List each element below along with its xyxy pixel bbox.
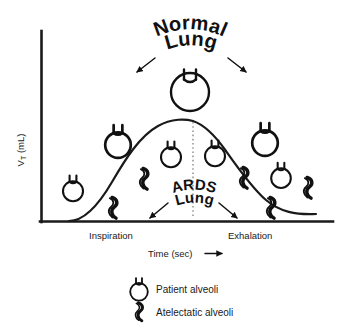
patient-alveolus-icon: [130, 278, 148, 301]
exhalation-label: Exhalation: [228, 230, 272, 241]
patient-alveolus-left-upper: [105, 125, 131, 158]
atelectatic-alveolus-icon: [135, 303, 142, 321]
legend-item-atelectatic-alveoli: Atelectatic alveoli: [135, 303, 233, 321]
normal-lung-arrow-right: [228, 58, 246, 72]
x-axis-label: Time (sec): [148, 248, 193, 259]
patient-alveolus-right-upper: [252, 123, 278, 156]
legend-label-patient-alveoli: Patient alveoli: [156, 284, 218, 295]
y-axis-label-group: VT (mL): [15, 134, 28, 167]
atelectatic-alveolus-left-mid: [140, 168, 148, 189]
diagram-canvas: Normal Lung ARDS Lung VT (mL) Inspiratio…: [0, 0, 350, 331]
inspiration-label: Inspiration: [89, 230, 133, 241]
legend-label-atelectatic-alveoli: Atelectatic alveoli: [156, 307, 233, 318]
normal-lung-alveolus: [171, 70, 209, 112]
legend: Patient alveoli Atelectatic alveoli: [130, 278, 233, 321]
patient-alveolus-mid-left: [161, 142, 181, 168]
patient-alveolus-right-lower: [271, 163, 291, 188]
atelectatic-alveolus-left-low: [109, 197, 117, 218]
y-axis-label-unit: (mL): [15, 134, 26, 156]
legend-item-patient-alveoli: Patient alveoli: [130, 278, 218, 301]
patient-alveolus-far-left: [63, 176, 83, 202]
ards-lung-arrow-right: [219, 203, 237, 218]
svg-text:VT (mL): VT (mL): [15, 134, 28, 167]
normal-lung-arrow-left: [137, 58, 155, 72]
ards-lung-arrow-left: [150, 203, 168, 218]
lung-volume-diagram: Normal Lung ARDS Lung VT (mL) Inspiratio…: [0, 0, 350, 331]
atelectatic-alveolus-far-right: [304, 177, 312, 198]
